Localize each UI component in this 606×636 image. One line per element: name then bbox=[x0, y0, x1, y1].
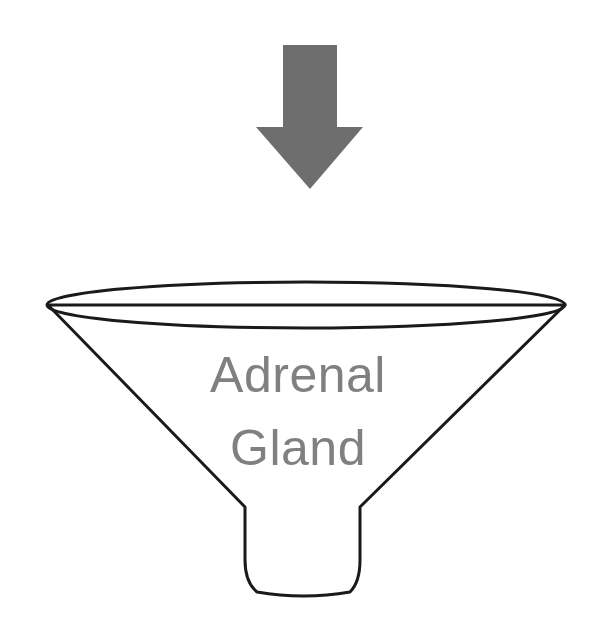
downward-arrow-icon bbox=[256, 45, 363, 189]
funnel-diagram-figure: Adrenal Gland bbox=[0, 0, 606, 636]
label-line-gland: Gland bbox=[230, 420, 366, 476]
diagram-canvas: Adrenal Gland bbox=[0, 0, 606, 636]
downward-arrow-group bbox=[256, 45, 363, 189]
label-line-adrenal: Adrenal bbox=[210, 347, 386, 403]
